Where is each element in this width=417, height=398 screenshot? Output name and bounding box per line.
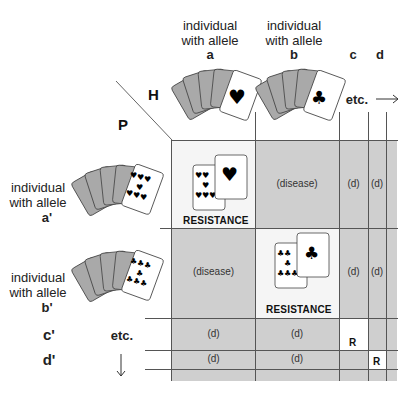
svg-text:♣: ♣ — [284, 259, 291, 268]
grid-hline-d-end — [145, 369, 398, 370]
grid-vline-cd — [368, 112, 369, 381]
svg-text:♥: ♥ — [144, 175, 151, 184]
row-b-caption-line2: with allele — [0, 285, 76, 300]
svg-text:♥: ♥ — [228, 85, 246, 109]
row-a-caption-line1: individual — [0, 180, 76, 195]
row-d-allele: d' — [42, 352, 56, 367]
svg-text:♣: ♣ — [311, 87, 327, 108]
row-a-caption-line2: with allele — [0, 195, 76, 210]
card-fan-club-pathogen: ♣♣♣ ♣ ♣♣♣ — [84, 244, 164, 314]
cell-ad-label: (d) — [368, 178, 386, 189]
cell-da-label: (d) — [172, 353, 255, 364]
svg-text:♣: ♣ — [304, 243, 319, 263]
svg-text:♣: ♣ — [140, 279, 147, 288]
row-a-caption: individual with allele — [0, 180, 76, 210]
row-etc-label: etc. — [105, 328, 139, 343]
row-b-allele: b' — [40, 300, 54, 315]
cell-cc-label: R — [349, 337, 356, 348]
svg-text:♥: ♥ — [202, 171, 209, 180]
cell-bb-label: RESISTANCE — [266, 304, 332, 315]
grid-hline-cd — [145, 350, 398, 351]
cell-ba-label: (disease) — [172, 266, 255, 277]
cell-cb-label: (d) — [255, 328, 339, 339]
svg-text:♥: ♥ — [140, 193, 147, 202]
grid-hline-top — [172, 140, 398, 141]
cell-aa-label: RESISTANCE — [183, 215, 249, 226]
grid-hline-ab — [160, 228, 398, 229]
row-b-caption: individual with allele — [0, 270, 76, 300]
card-fan-club-host: ♣ — [266, 62, 346, 134]
grid-vline-ab — [255, 112, 256, 381]
svg-text:♣: ♣ — [284, 249, 291, 258]
grid-hline-bc — [145, 318, 398, 319]
card-fan-heart-host: ♥ — [182, 62, 262, 134]
cell-ca-label: (d) — [172, 328, 255, 339]
cell-ab-label: (disease) — [255, 178, 339, 189]
grid-vline-d-end — [386, 112, 387, 381]
row-arrow-icon — [114, 352, 128, 380]
svg-text:♥: ♥ — [221, 163, 238, 185]
card-fan-heart-pathogen: ♥♥♥ ♥ ♥♥♥ — [84, 158, 164, 228]
cell-bd-label: (d) — [368, 266, 386, 277]
cell-aa-cards: ♥♥ ♥ ♥♥♥ ♥ — [192, 154, 248, 212]
cell-bb-cards: ♣♣ ♣ ♣♣♣ ♣ — [274, 232, 330, 290]
svg-text:♥: ♥ — [202, 181, 209, 190]
row-a-allele: a' — [40, 210, 54, 225]
row-b-caption-line1: individual — [0, 270, 76, 285]
grid-vline-bc — [339, 112, 340, 381]
cell-db-label: (d) — [255, 353, 339, 364]
cell-bc-label: (d) — [339, 266, 368, 277]
svg-text:♣: ♣ — [144, 261, 151, 270]
grid-vline-left — [171, 140, 172, 381]
row-c-allele: c' — [42, 327, 56, 342]
cell-dd-label: R — [373, 356, 380, 367]
cell-ac-label: (d) — [339, 178, 368, 189]
